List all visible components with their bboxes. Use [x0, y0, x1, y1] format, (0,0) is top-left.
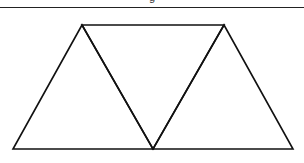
middle-triangle — [82, 25, 224, 149]
triangle-diagram — [0, 0, 304, 163]
left-triangle — [13, 25, 153, 149]
right-triangle — [153, 25, 293, 149]
